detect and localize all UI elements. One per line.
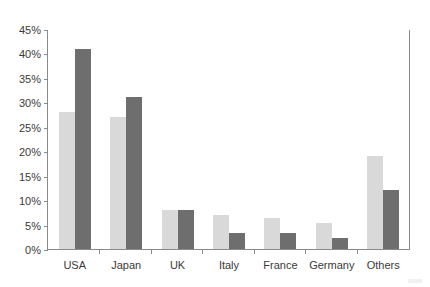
bar-series2[interactable] [75, 49, 91, 249]
bar-group-italy: Italy [203, 30, 254, 249]
y-axis-tick-mark [44, 177, 48, 178]
x-axis-label: Italy [203, 258, 254, 272]
y-axis-tick-label: 35% [19, 71, 41, 87]
y-axis-tick-mark [44, 152, 48, 153]
bar-pair [49, 30, 100, 249]
y-axis-tick: 45% [1, 30, 48, 31]
y-axis-tick: 20% [1, 152, 48, 153]
bar-group-germany: Germany [306, 30, 357, 249]
y-axis-tick: 15% [1, 177, 48, 178]
bar-pair [306, 30, 357, 249]
bar-series1[interactable] [367, 156, 383, 249]
x-axis-label: USA [49, 258, 100, 272]
bar-group-uk: UK [152, 30, 203, 249]
y-axis-tick: 5% [1, 226, 48, 227]
y-axis-tick: 30% [1, 103, 48, 104]
bar-group-france: France [255, 30, 306, 249]
bar-series1[interactable] [213, 215, 229, 249]
y-axis-tick-mark [44, 30, 48, 31]
x-axis-label: Germany [306, 258, 357, 272]
x-axis-divider [254, 249, 255, 254]
bar-series1[interactable] [59, 112, 75, 249]
x-axis-divider [99, 249, 100, 254]
x-axis-label: Others [358, 258, 409, 272]
x-axis-label: UK [152, 258, 203, 272]
y-axis-tick: 10% [1, 201, 48, 202]
x-axis-divider [357, 249, 358, 254]
x-axis-divider [305, 249, 306, 254]
y-axis-tick-label: 0% [25, 242, 41, 258]
y-axis-tick-mark [44, 226, 48, 227]
bar-series2[interactable] [280, 233, 296, 249]
bar-series2[interactable] [126, 97, 142, 249]
y-axis-tick-mark [44, 103, 48, 104]
x-axis-divider [151, 249, 152, 254]
bar-pair [255, 30, 306, 249]
bar-series1[interactable] [264, 218, 280, 249]
x-axis-label: France [255, 258, 306, 272]
bar-series2[interactable] [229, 233, 245, 249]
bar-series2[interactable] [332, 238, 348, 249]
x-axis-divider [202, 249, 203, 254]
bar-group-others: Others [358, 30, 409, 249]
y-axis-tick-label: 15% [19, 169, 41, 185]
bar-pair [203, 30, 254, 249]
x-axis-label: Japan [100, 258, 151, 272]
y-axis-tick-label: 30% [19, 95, 41, 111]
bar-series1[interactable] [162, 210, 178, 249]
bar-group-japan: Japan [100, 30, 151, 249]
y-axis-tick-mark [44, 54, 48, 55]
bar-series1[interactable] [110, 117, 126, 249]
y-axis-tick-label: 40% [19, 46, 41, 62]
y-axis-tick-label: 5% [25, 218, 41, 234]
y-axis-tick-mark [44, 79, 48, 80]
y-axis-tick-label: 25% [19, 120, 41, 136]
y-axis-tick-label: 20% [19, 144, 41, 160]
bar-series2[interactable] [178, 210, 194, 249]
bar-series1[interactable] [316, 223, 332, 249]
y-axis-tick: 25% [1, 128, 48, 129]
x-axis-groups: USA Japan UK [49, 30, 409, 249]
plot-area: 45% 40% 35% 30% 25% 20% 15% 10% [47, 30, 410, 250]
bar-series2[interactable] [383, 190, 399, 249]
y-axis-tick: 40% [1, 54, 48, 55]
y-axis-tick: 0% [1, 250, 48, 251]
y-axis-tick-label: 45% [19, 22, 41, 38]
corner-artifact [408, 279, 422, 283]
bar-pair [152, 30, 203, 249]
y-axis-tick-mark [44, 201, 48, 202]
bar-group-usa: USA [49, 30, 100, 249]
y-axis-tick-mark [44, 128, 48, 129]
bar-chart: 45% 40% 35% 30% 25% 20% 15% 10% [0, 0, 430, 287]
y-axis-tick-label: 10% [19, 193, 41, 209]
bar-pair [358, 30, 409, 249]
bar-pair [100, 30, 151, 249]
y-axis-tick-mark [44, 250, 48, 251]
y-axis-tick: 35% [1, 79, 48, 80]
